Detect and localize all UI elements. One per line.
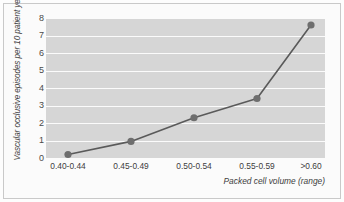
y-tick-0: 0	[30, 154, 44, 163]
y-tick-4: 4	[30, 84, 44, 93]
data-point-0	[64, 151, 71, 158]
x-axis-title: Packed cell volume (range)	[46, 176, 325, 186]
y-tick-2: 2	[30, 119, 44, 128]
x-tick-2: 0.50-0.54	[176, 161, 211, 171]
x-tick-3: 0.55-0.59	[239, 161, 274, 171]
y-tick-8: 8	[30, 14, 44, 23]
y-tick-7: 7	[30, 31, 44, 40]
chart-figure: 8 7 6 5 4 3 2 1 0 Vascular occlusive epi…	[0, 0, 344, 202]
y-tick-3: 3	[30, 101, 44, 110]
x-axis-ticks: 0.40-0.44 0.45-0.49 0.50-0.54 0.55-0.59 …	[46, 161, 325, 173]
data-series-layer	[46, 18, 325, 158]
data-point-2	[190, 114, 197, 121]
data-point-1	[127, 138, 134, 145]
x-tick-1: 0.45-0.49	[113, 161, 148, 171]
y-axis-title: Vascular occlusive episodes per 10 patie…	[13, 1, 22, 161]
series-line	[68, 25, 311, 155]
plot-area	[46, 18, 325, 158]
y-tick-6: 6	[30, 49, 44, 58]
y-tick-1: 1	[30, 136, 44, 145]
series-markers	[64, 21, 314, 158]
x-tick-4: >0.60	[300, 161, 321, 171]
y-axis-ticks: 8 7 6 5 4 3 2 1 0	[26, 0, 44, 202]
x-tick-0: 0.40-0.44	[50, 161, 85, 171]
data-point-3	[253, 95, 260, 102]
data-point-4	[307, 21, 314, 28]
y-tick-5: 5	[30, 66, 44, 75]
